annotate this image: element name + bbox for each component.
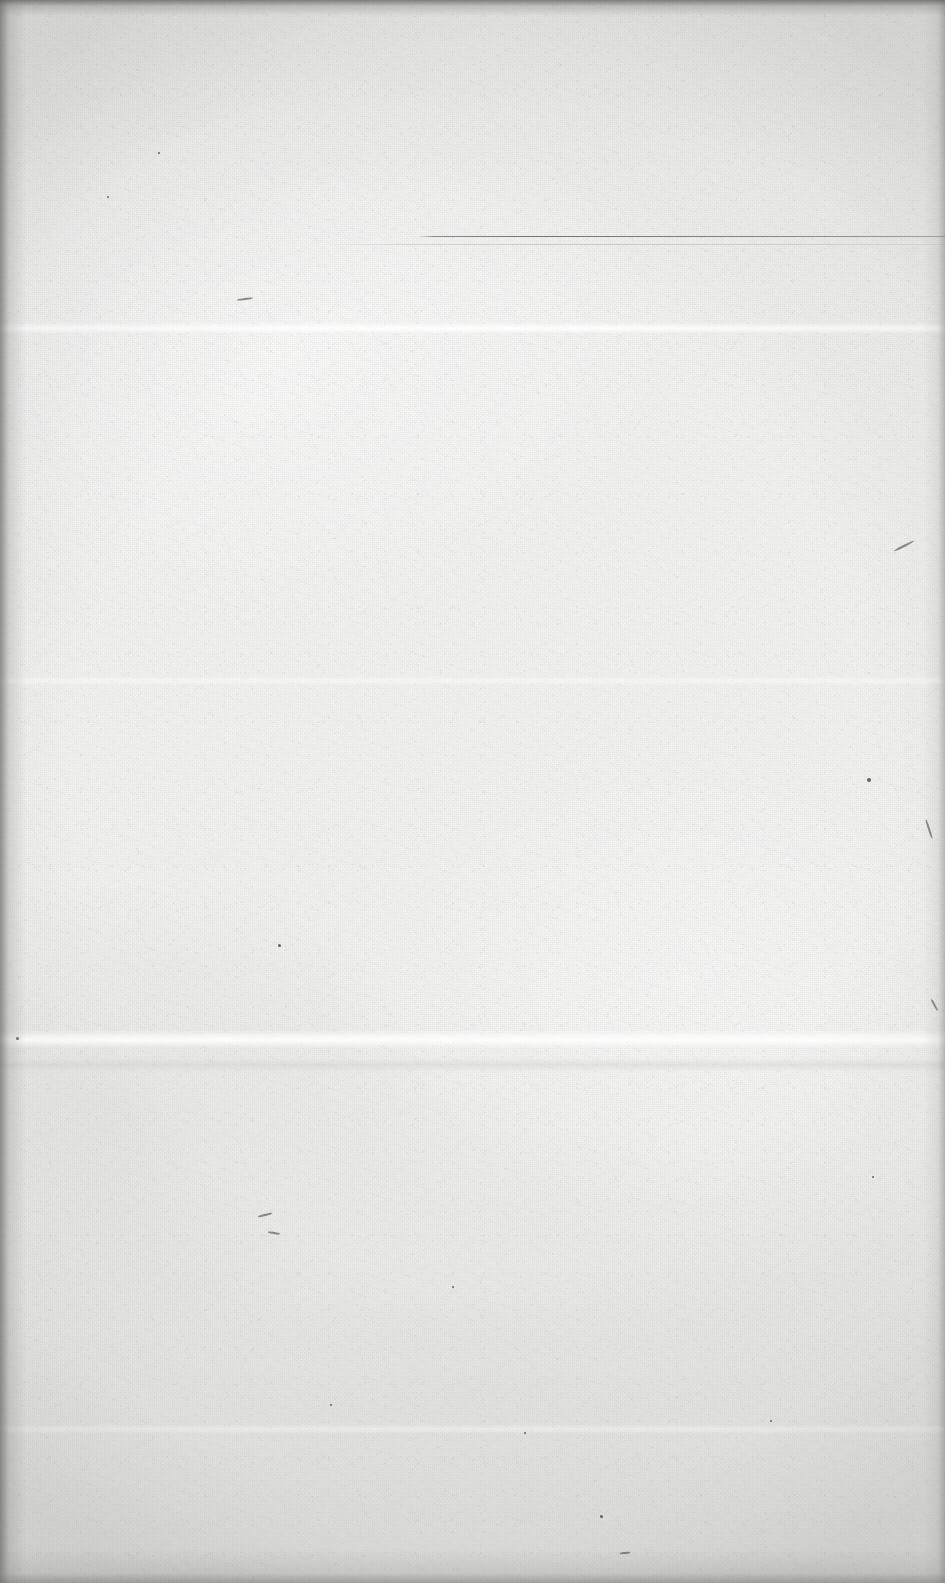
- paper-grain-speckle: [0, 0, 945, 1583]
- dust-speck: [524, 1432, 526, 1434]
- paper-grain-fibers: [0, 0, 945, 1583]
- header-rule-ghost: [330, 244, 945, 245]
- crease-upper-faint: [0, 676, 945, 686]
- header-rule: [418, 236, 945, 237]
- dust-speck: [872, 1176, 874, 1178]
- scanned-page: [0, 0, 945, 1583]
- paper-fiber: [894, 540, 915, 552]
- dust-speck: [158, 152, 160, 154]
- paper-fiber: [930, 999, 938, 1011]
- dust-speck: [107, 196, 109, 198]
- crease-upper: [0, 322, 945, 334]
- paper-grain-fine: [0, 0, 945, 1583]
- crease-lower: [0, 1424, 945, 1434]
- paper-fiber: [258, 1212, 272, 1217]
- dust-speck: [330, 1404, 332, 1406]
- paper-fiber: [620, 1552, 630, 1555]
- dust-speck: [600, 1515, 603, 1518]
- dust-speck: [867, 778, 871, 782]
- dust-speck: [452, 1286, 454, 1288]
- dust-speck: [770, 1420, 772, 1422]
- dust-speck: [16, 1037, 19, 1040]
- dust-speck: [278, 944, 281, 947]
- scan-edge-vignette: [0, 0, 945, 1583]
- scan-corner-falloff: [0, 0, 945, 1583]
- crease-mid: [0, 1030, 945, 1048]
- paper-fiber: [268, 1231, 280, 1235]
- paper-fiber: [237, 297, 253, 301]
- paper-fiber: [925, 819, 933, 839]
- crease-mid-shadow: [0, 1058, 945, 1072]
